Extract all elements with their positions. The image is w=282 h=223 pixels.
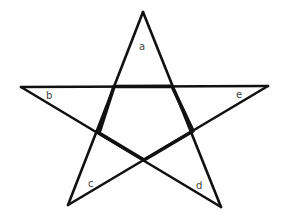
angle-label-b: b <box>46 91 52 101</box>
angle-label-a: a <box>139 42 145 52</box>
angle-label-d: d <box>196 181 202 191</box>
angle-label-c: c <box>88 179 94 189</box>
angle-label-e: e <box>236 90 242 100</box>
pentagram-diagram: a b e c d <box>0 0 282 223</box>
inner-pentagon <box>99 86 193 160</box>
star-drawing <box>0 0 282 223</box>
